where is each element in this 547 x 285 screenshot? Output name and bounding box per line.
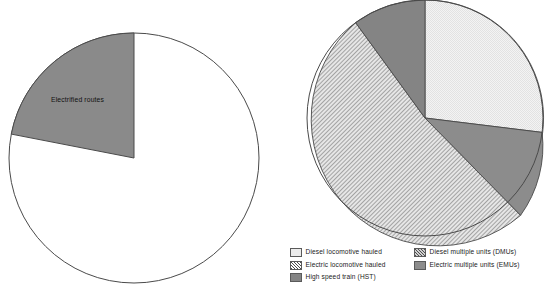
diesel-loco-swatch-icon [290,248,302,257]
legend-item-electric-locomotive-hauled[interactable]: Electric locomotive hauled [290,260,420,271]
legend-label-electric-locomotive-hauled: Electric locomotive hauled [306,262,386,269]
legend-column-right: Diesel multiple units (DMUs) Electric mu… [414,247,546,272]
electrified-routes-pie-svg: Electrified routes [0,0,280,285]
legend-item-high-speed-train[interactable]: High speed train (HST) [290,272,420,283]
legend-item-electric-multiple-units[interactable]: Electric multiple units (EMUs) [414,260,546,271]
legend: Diesel locomotive hauled Electric locomo… [290,247,546,285]
legend-item-diesel-locomotive-hauled[interactable]: Diesel locomotive hauled [290,247,420,258]
dmu-swatch-icon [414,248,426,257]
electric-loco-swatch-icon [290,261,302,270]
electrified-routes-pie-panel: Electrified routes [0,0,280,285]
legend-label-diesel-multiple-units: Diesel multiple units (DMUs) [430,249,517,256]
hst-swatch-icon [290,273,302,282]
emu-swatch-icon [414,261,426,270]
legend-label-diesel-locomotive-hauled: Diesel locomotive hauled [306,249,382,256]
traction-type-pie-svg [280,0,547,250]
legend-label-electric-multiple-units: Electric multiple units (EMUs) [430,262,520,269]
traction-type-pie-panel [280,0,547,250]
legend-column-left: Diesel locomotive hauled Electric locomo… [290,247,420,285]
legend-item-diesel-multiple-units[interactable]: Diesel multiple units (DMUs) [414,247,546,258]
figure-container: Electrified routes [0,0,547,285]
legend-label-high-speed-train: High speed train (HST) [306,274,376,281]
traction-pie-slices [307,0,544,246]
pie-slice-label-electrified: Electrified routes [51,96,105,103]
